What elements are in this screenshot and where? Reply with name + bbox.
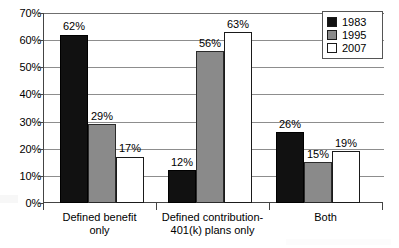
scan-artifact-bottom	[286, 239, 391, 245]
legend-swatch-1983-icon	[327, 17, 337, 27]
bar-value-1995-both: 15%	[301, 149, 335, 160]
y-tick-label-60: 60%	[5, 35, 41, 46]
y-tick-label-40: 40%	[5, 89, 41, 100]
x-tick-mark	[382, 203, 383, 210]
x-category-label-defined-benefit-only: Defined benefit only	[43, 211, 156, 237]
y-tick-label-20: 20%	[5, 144, 41, 155]
bar-1995-defined-benefit-only[interactable]	[88, 124, 116, 203]
y-tick-label-30: 30%	[5, 117, 41, 128]
bar-1983-defined-contribution-401k-plans-only[interactable]	[168, 170, 196, 203]
bar-value-2007-both: 19%	[329, 138, 363, 149]
bar-1983-both[interactable]	[276, 132, 304, 203]
bar-chart: 70% 60% 50% 40% 30% 20% 10% 0%	[0, 0, 399, 248]
bar-value-1983-defined-contribution-401k-plans-only: 12%	[165, 157, 199, 168]
bar-2007-defined-contribution-401k-plans-only[interactable]	[224, 32, 252, 203]
bar-value-1983-defined-benefit-only: 62%	[57, 21, 91, 32]
bar-value-1995-defined-benefit-only: 29%	[85, 111, 119, 122]
legend-item-1983[interactable]: 1983	[327, 16, 378, 28]
bar-value-2007-defined-benefit-only: 17%	[113, 143, 147, 154]
legend-swatch-2007-icon	[327, 43, 337, 53]
bar-1983-defined-benefit-only[interactable]	[60, 35, 88, 203]
x-category-label-defined-contribution-401k-plans-only: Defined contribution- 401(k) plans only	[156, 211, 269, 237]
bar-1995-both[interactable]	[304, 162, 332, 203]
scan-artifact-left	[0, 195, 18, 203]
bar-value-1995-defined-contribution-401k-plans-only: 56%	[193, 38, 227, 49]
legend-label-1983: 1983	[342, 17, 366, 28]
x-tick-mark	[43, 203, 44, 210]
y-axis: 70% 60% 50% 40% 30% 20% 10% 0%	[0, 13, 41, 203]
x-tick-mark	[269, 203, 270, 210]
legend-label-2007: 2007	[342, 43, 366, 54]
legend: 1983 1995 2007	[322, 11, 383, 59]
bar-value-2007-defined-contribution-401k-plans-only: 63%	[221, 19, 255, 30]
bar-2007-both[interactable]	[332, 151, 360, 203]
y-tick-label-70: 70%	[5, 8, 41, 19]
legend-label-1995: 1995	[342, 30, 366, 41]
bar-value-1983-both: 26%	[273, 119, 307, 130]
legend-item-1995[interactable]: 1995	[327, 29, 378, 41]
bar-1995-defined-contribution-401k-plans-only[interactable]	[196, 51, 224, 203]
legend-item-2007[interactable]: 2007	[327, 42, 378, 54]
bar-2007-defined-benefit-only[interactable]	[116, 157, 144, 203]
x-category-label-both: Both	[269, 211, 382, 224]
legend-swatch-1995-icon	[327, 30, 337, 40]
y-tick-label-10: 10%	[5, 171, 41, 182]
x-tick-mark	[156, 203, 157, 210]
y-tick-label-50: 50%	[5, 62, 41, 73]
